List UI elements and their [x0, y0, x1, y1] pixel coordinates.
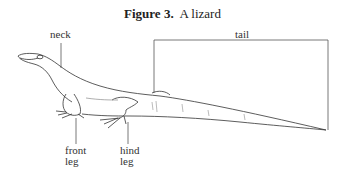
lizard-body-outline	[18, 53, 326, 130]
tail-label: tail	[235, 29, 249, 40]
label-leader-lines	[61, 40, 328, 144]
neck-label: neck	[50, 29, 71, 40]
lizard-diagram	[0, 0, 345, 172]
front-leg-label-line2: leg	[65, 156, 78, 167]
hind-leg-label-line2: leg	[120, 156, 133, 167]
tail-bracket	[154, 40, 328, 130]
